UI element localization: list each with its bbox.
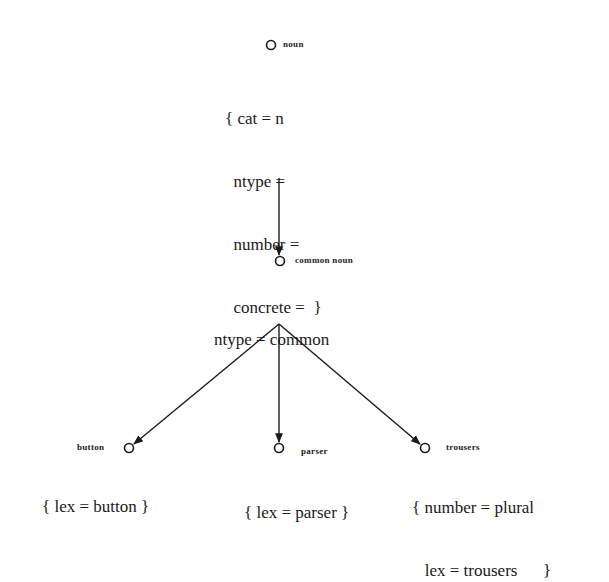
feature-line: { number = plural (412, 497, 551, 518)
node-circle-noun (267, 41, 276, 50)
feature-block-common-noun: ntype = common (214, 287, 329, 392)
node-label-parser: parser (301, 446, 328, 456)
feature-line: ntype = (225, 171, 322, 192)
node-label-noun: noun (283, 39, 304, 49)
feature-line: ntype = common (214, 329, 329, 350)
feature-line: lex = trousers } (412, 560, 551, 581)
node-circle-button (125, 444, 134, 453)
feature-block-trousers: { number = plural lex = trousers } (412, 455, 551, 582)
feature-line: { cat = n (225, 108, 322, 129)
node-circle-parser (275, 444, 284, 453)
node-label-common-noun: common noun (295, 255, 353, 265)
feature-block-button: { lex = button } (42, 454, 149, 559)
feature-line: number = (225, 234, 322, 255)
node-label-trousers: trousers (446, 442, 480, 452)
node-label-button: button (77, 442, 104, 452)
feature-block-parser: { lex = parser } (244, 460, 349, 565)
feature-line: { lex = button } (42, 496, 149, 517)
node-circle-trousers (421, 444, 430, 453)
feature-line: { lex = parser } (244, 502, 349, 523)
